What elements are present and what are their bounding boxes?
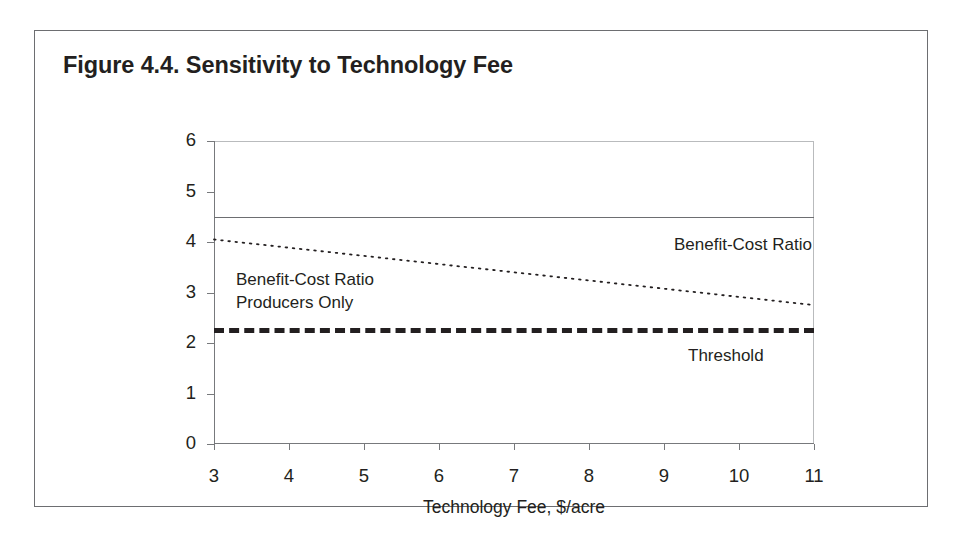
annotation-threshold: Threshold bbox=[688, 345, 764, 368]
y-tick-3: 3 bbox=[207, 293, 214, 294]
x-tick-label-9: 9 bbox=[659, 465, 669, 487]
x-tick-3: 3 bbox=[214, 444, 215, 450]
x-tick-label-7: 7 bbox=[509, 465, 519, 487]
y-tick-5: 5 bbox=[207, 192, 214, 193]
x-tick-label-8: 8 bbox=[584, 465, 594, 487]
x-tick-6: 6 bbox=[439, 444, 440, 450]
x-tick-label-10: 10 bbox=[729, 465, 750, 487]
x-tick-5: 5 bbox=[364, 444, 365, 450]
y-tick-6: 6 bbox=[207, 141, 214, 142]
x-tick-10: 10 bbox=[739, 444, 740, 450]
x-tick-7: 7 bbox=[514, 444, 515, 450]
x-axis-title: Technology Fee, $/acre bbox=[214, 497, 814, 518]
y-tick-label-0: 0 bbox=[186, 432, 196, 454]
y-tick-label-2: 2 bbox=[186, 331, 196, 353]
x-tick-label-4: 4 bbox=[284, 465, 294, 487]
y-tick-1: 1 bbox=[207, 394, 214, 395]
plot-area: 0 1 2 3 4 5 6 3 4 5 6 bbox=[214, 141, 814, 444]
x-tick-4: 4 bbox=[289, 444, 290, 450]
x-tick-9: 9 bbox=[664, 444, 665, 450]
annotation-benefit-cost-ratio-producers-only-line2: Producers Only bbox=[236, 292, 353, 315]
y-tick-2: 2 bbox=[207, 343, 214, 344]
y-tick-0: 0 bbox=[207, 444, 214, 445]
y-tick-label-1: 1 bbox=[186, 382, 196, 404]
x-tick-label-3: 3 bbox=[209, 465, 219, 487]
x-tick-8: 8 bbox=[589, 444, 590, 450]
x-tick-11: 11 bbox=[814, 444, 815, 450]
y-tick-label-6: 6 bbox=[186, 129, 196, 151]
x-tick-label-11: 11 bbox=[804, 465, 823, 487]
y-tick-label-4: 4 bbox=[186, 230, 196, 252]
y-tick-4: 4 bbox=[207, 242, 214, 243]
x-tick-label-5: 5 bbox=[359, 465, 369, 487]
series-line-threshold bbox=[214, 328, 814, 333]
figure-frame: Figure 4.4. Sensitivity to Technology Fe… bbox=[34, 30, 928, 507]
annotation-benefit-cost-ratio: Benefit-Cost Ratio bbox=[674, 234, 812, 257]
annotation-benefit-cost-ratio-producers-only-line1: Benefit-Cost Ratio bbox=[236, 269, 374, 292]
y-tick-label-3: 3 bbox=[186, 281, 196, 303]
y-tick-label-5: 5 bbox=[186, 180, 196, 202]
figure-title: Figure 4.4. Sensitivity to Technology Fe… bbox=[63, 52, 513, 79]
x-tick-label-6: 6 bbox=[434, 465, 444, 487]
